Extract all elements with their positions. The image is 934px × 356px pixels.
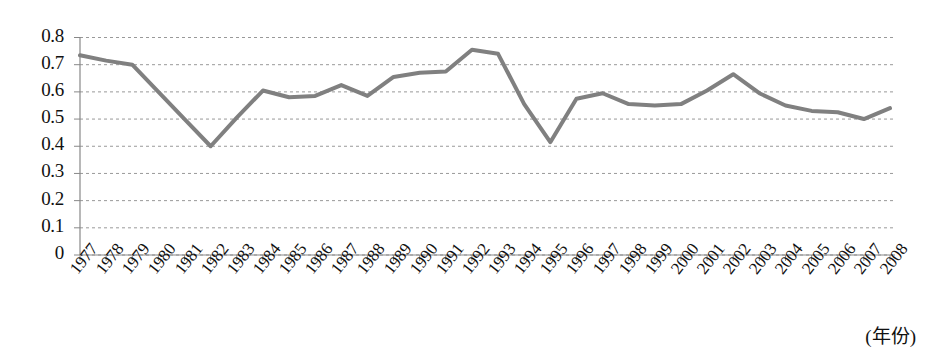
- gridlines: [80, 38, 895, 256]
- y-axis-tick-label: 0.3: [18, 160, 64, 182]
- y-axis-tick-label: 0.8: [18, 25, 64, 47]
- y-axis-tick-label: 0.1: [18, 215, 64, 237]
- y-axis-tick-label: 0.6: [18, 79, 64, 101]
- y-axis-tick-label: 0.5: [18, 106, 64, 128]
- chart-plot-area: [0, 0, 934, 356]
- y-axis-tick-label: 0.4: [18, 133, 64, 155]
- y-axis-tick-label: 0.2: [18, 188, 64, 210]
- chart-figure: 0.80.70.60.50.40.30.20.10 19771978197919…: [0, 0, 934, 356]
- y-axis-tick-label: 0.7: [18, 52, 64, 74]
- x-axis-title: (年份): [865, 321, 916, 348]
- y-axis-tick-label: 0: [18, 242, 64, 264]
